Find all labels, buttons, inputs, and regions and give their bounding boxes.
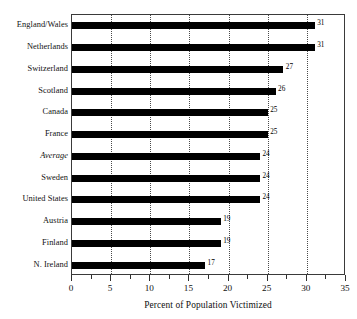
- bar: [72, 88, 276, 95]
- category-label: N. Ireland: [0, 260, 68, 269]
- bar-chart: England/WalesNetherlandsSwitzerlandScotl…: [0, 0, 357, 319]
- bar-value-label: 24: [262, 151, 269, 159]
- x-tick-major: [149, 275, 150, 281]
- bar: [72, 131, 268, 138]
- x-tick-label: 0: [69, 283, 74, 294]
- category-label: Netherlands: [0, 42, 68, 51]
- category-label: Average: [0, 151, 68, 160]
- gridline: [189, 15, 190, 274]
- x-tick-minor: [169, 275, 170, 279]
- bar-value-label: 26: [278, 86, 285, 94]
- x-tick-label: 35: [340, 283, 349, 294]
- category-label: United States: [0, 194, 68, 203]
- bar: [72, 44, 315, 51]
- x-axis-tick-labels: 05101520253035: [71, 283, 345, 297]
- x-tick-major: [110, 275, 111, 281]
- bar: [72, 22, 315, 29]
- x-tick-label: 10: [145, 283, 154, 294]
- x-tick-major: [228, 275, 229, 281]
- bar: [72, 153, 260, 160]
- bar: [72, 109, 268, 116]
- gridline: [229, 15, 230, 274]
- x-tick-major: [71, 275, 72, 281]
- x-tick-major: [345, 275, 346, 281]
- category-axis-labels: England/WalesNetherlandsSwitzerlandScotl…: [0, 14, 68, 275]
- x-tick-minor: [247, 275, 248, 279]
- category-label: France: [0, 129, 68, 138]
- x-tick-minor: [130, 275, 131, 279]
- bar-value-label: 31: [317, 42, 324, 50]
- x-tick-minor: [91, 275, 92, 279]
- bar: [72, 240, 221, 247]
- gridline: [150, 15, 151, 274]
- bar-value-label: 24: [262, 173, 269, 181]
- bar-value-label: 31: [317, 20, 324, 28]
- x-axis-title: Percent of Population Victimized: [71, 299, 345, 311]
- bar: [72, 262, 205, 269]
- x-axis-ticks: [71, 275, 345, 282]
- x-tick-minor: [208, 275, 209, 279]
- x-tick-major: [306, 275, 307, 281]
- x-tick-label: 20: [223, 283, 232, 294]
- bar: [72, 218, 221, 225]
- category-label: Switzerland: [0, 64, 68, 73]
- bar: [72, 175, 260, 182]
- gridline: [111, 15, 112, 274]
- bar-value-label: 25: [270, 129, 277, 137]
- bar-value-label: 27: [286, 64, 293, 72]
- x-tick-label: 25: [262, 283, 271, 294]
- bar-value-label: 25: [270, 107, 277, 115]
- bar-value-label: 17: [208, 260, 215, 268]
- category-label: England/Wales: [0, 20, 68, 29]
- x-tick-major: [188, 275, 189, 281]
- gridline: [307, 15, 308, 274]
- x-tick-label: 5: [108, 283, 113, 294]
- bar: [72, 196, 260, 203]
- category-label: Austria: [0, 216, 68, 225]
- bar: [72, 66, 283, 73]
- category-label: Sweden: [0, 173, 68, 182]
- category-label: Scotland: [0, 86, 68, 95]
- x-tick-minor: [286, 275, 287, 279]
- bar-value-label: 24: [262, 194, 269, 202]
- plot-inner: 313127262525242424191917: [72, 15, 344, 274]
- x-tick-label: 30: [301, 283, 310, 294]
- x-tick-major: [267, 275, 268, 281]
- category-label: Finland: [0, 238, 68, 247]
- plot-area: 313127262525242424191917: [71, 14, 345, 275]
- x-tick-label: 15: [184, 283, 193, 294]
- bar-value-label: 19: [223, 238, 230, 246]
- category-label: Canada: [0, 107, 68, 116]
- bar-value-label: 19: [223, 216, 230, 224]
- x-tick-minor: [325, 275, 326, 279]
- gridline: [268, 15, 269, 274]
